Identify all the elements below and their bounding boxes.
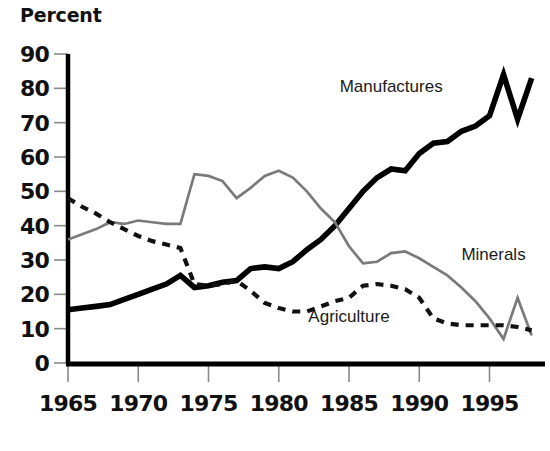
y-tick-label: 90 (20, 42, 50, 67)
y-tick-label: 0 (34, 351, 49, 376)
chart-background (0, 0, 550, 451)
page-title: Percent (20, 4, 102, 26)
line-chart: Percent 0102030405060708090 196519701975… (0, 0, 550, 451)
y-tick-label: 70 (20, 111, 50, 136)
y-tick-label: 80 (20, 76, 50, 101)
y-tick-label: 30 (20, 248, 50, 273)
chart-container: Percent 0102030405060708090 196519701975… (0, 0, 550, 451)
x-tick-label: 1970 (109, 391, 168, 416)
y-tick-label: 40 (20, 214, 50, 239)
series-label-agriculture: Agriculture (308, 307, 389, 326)
x-tick-label: 1980 (250, 391, 309, 416)
x-tick-label: 1975 (179, 391, 237, 416)
x-tick-label: 1985 (320, 391, 378, 416)
x-tick-label: 1995 (460, 391, 518, 416)
x-tick-label: 1990 (390, 391, 449, 416)
x-tick-label: 1965 (39, 391, 97, 416)
series-label-manufactures: Manufactures (340, 77, 443, 96)
y-tick-label: 60 (20, 145, 50, 170)
y-tick-label: 50 (20, 179, 50, 204)
series-label-minerals: Minerals (461, 245, 525, 264)
y-tick-label: 20 (20, 282, 50, 307)
y-tick-label: 10 (20, 317, 50, 342)
